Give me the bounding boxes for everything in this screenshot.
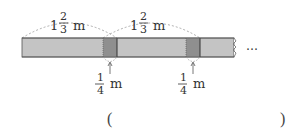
svg-text:3: 3	[140, 23, 147, 36]
svg-text:4: 4	[97, 84, 104, 97]
segment-2-arc	[103, 23, 200, 38]
svg-text:1: 1	[97, 71, 104, 84]
tape-strip	[22, 38, 234, 57]
overlap-1	[103, 38, 117, 57]
answer-blank[interactable]	[120, 112, 275, 130]
answer-close-paren: )	[280, 110, 285, 128]
svg-text:3: 3	[60, 23, 67, 36]
overlap-2-length-label: 1 4 m	[178, 71, 205, 97]
svg-text:1: 1	[180, 71, 187, 84]
svg-text:m: m	[193, 76, 205, 91]
svg-text:2: 2	[60, 10, 67, 23]
arrow-up-icon	[191, 62, 195, 74]
answer-open-paren: (	[107, 110, 112, 128]
svg-text:1: 1	[130, 18, 138, 33]
segment-1-arc	[22, 23, 117, 38]
svg-text:4: 4	[180, 84, 187, 97]
tape-overlap-diagram: 1 2 3 m 1 2 3 m 1 4 m 1 4 m …	[0, 0, 305, 140]
svg-text:m: m	[73, 18, 85, 33]
segment-2-length-label: 1 2 3 m	[130, 10, 165, 36]
continuation-ellipsis: …	[246, 39, 258, 53]
svg-text:m: m	[153, 18, 165, 33]
arrow-up-icon	[108, 62, 112, 74]
segment-1-length-label: 1 2 3 m	[50, 10, 85, 36]
overlap-2	[186, 38, 200, 57]
svg-text:1: 1	[50, 18, 58, 33]
svg-text:m: m	[110, 76, 122, 91]
svg-text:2: 2	[140, 10, 147, 23]
overlap-1-length-label: 1 4 m	[95, 71, 122, 97]
